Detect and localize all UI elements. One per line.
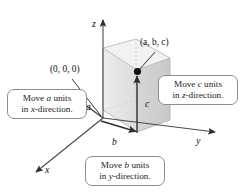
z-axis-label: z	[92, 18, 96, 29]
callout-x-line2: in x-direction.	[12, 104, 82, 115]
callout-move-c-z: Move c units in z-direction.	[158, 75, 238, 105]
callout-move-b-y: Move b units in y-direction.	[85, 156, 165, 186]
segment-b-label: b	[112, 136, 117, 147]
callout-move-a-x: Move a units in x-direction.	[7, 89, 87, 119]
callout-y-line2: in y-direction.	[90, 171, 160, 182]
callout-x-line1: Move a units	[12, 93, 82, 104]
callout-y-line1: Move b units	[90, 160, 160, 171]
point-abc-marker	[134, 68, 141, 75]
callout-z-line2: in z-direction.	[163, 90, 233, 101]
point-abc-label: (a, b, c)	[140, 37, 169, 47]
callout-z-line1: Move c units	[163, 79, 233, 90]
y-axis-label: y	[196, 135, 200, 146]
origin-label: (0, 0, 0)	[50, 64, 80, 74]
x-axis-label: x	[45, 164, 49, 175]
segment-c-label: c	[145, 98, 149, 109]
figure-canvas: z y x (a, b, c) (0, 0, 0) a b c Move a u…	[0, 0, 245, 196]
